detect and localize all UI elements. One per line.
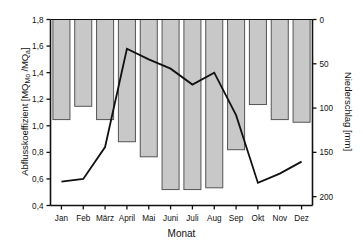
x-tick-feb: Feb — [76, 214, 91, 223]
x-axis-ticks: JanFebMärzAprilMaiJuniJuliAugSepOktNovDe… — [55, 206, 309, 223]
y-tick-left-0,6: 0,6 — [32, 175, 44, 184]
chart-plot-area: 0,40,60,81,01,21,41,61,8050100150200JanF… — [0, 0, 363, 252]
y-axis-left-title-mid: /MQ — [19, 54, 30, 74]
y-tick-left-1,4: 1,4 — [32, 69, 44, 78]
y-tick-left-1,2: 1,2 — [32, 95, 44, 104]
y-axis-left-title-end: ] — [19, 48, 30, 51]
x-tick-aug: Aug — [207, 214, 222, 223]
y-axis-left-ticks: 0,40,60,81,01,21,41,61,8 — [32, 16, 50, 211]
y-tick-right-150: 150 — [320, 148, 334, 157]
x-tick-okt: Okt — [252, 214, 265, 223]
y-tick-right-200: 200 — [320, 193, 334, 202]
bar-jan — [53, 20, 70, 120]
bar-dez — [293, 20, 310, 123]
bar-okt — [249, 20, 266, 105]
bar-aug — [206, 20, 223, 188]
x-axis-title: Monat — [0, 228, 363, 239]
y-axis-left-title-main: Abflusskoeffizient [MQ — [19, 84, 30, 176]
y-tick-left-1,6: 1,6 — [32, 42, 44, 51]
bar-juni — [162, 20, 179, 190]
x-tick-juni: Juni — [163, 214, 178, 223]
y-tick-right-0: 0 — [320, 16, 325, 25]
x-tick-jan: Jan — [55, 214, 69, 223]
x-tick-juli: Juli — [186, 214, 198, 223]
bar-series — [53, 20, 310, 190]
y-tick-left-1,0: 1,0 — [32, 122, 44, 131]
y-axis-right-title: Niederschlag [mm] — [343, 32, 354, 192]
x-tick-nov: Nov — [272, 214, 287, 223]
bar-juli — [184, 20, 201, 190]
x-tick-mai: Mai — [142, 214, 155, 223]
chart-figure: Abflusskoeffizient [MQMo /MQa] Niedersch… — [0, 0, 363, 252]
bar-april — [118, 20, 135, 142]
x-tick-april: April — [119, 214, 136, 223]
y-axis-right-ticks: 050100150200 — [313, 16, 334, 202]
x-tick-dez: Dez — [294, 214, 309, 223]
x-tick-märz: März — [96, 214, 114, 223]
y-tick-left-0,4: 0,4 — [32, 202, 44, 211]
y-tick-right-50: 50 — [320, 60, 330, 69]
bar-mai — [140, 20, 157, 157]
bar-nov — [271, 20, 288, 120]
y-axis-left-title: Abflusskoeffizient [MQMo /MQa] — [19, 17, 30, 207]
bar-sep — [228, 20, 245, 150]
y-tick-left-0,8: 0,8 — [32, 148, 44, 157]
y-axis-left-title-sub1: Mo — [24, 74, 31, 84]
bar-feb — [75, 20, 92, 107]
y-axis-left-title-sub2: a — [24, 50, 31, 54]
x-tick-sep: Sep — [229, 214, 244, 223]
y-tick-left-1,8: 1,8 — [32, 16, 44, 25]
y-tick-right-100: 100 — [320, 104, 334, 113]
bar-märz — [97, 20, 114, 120]
